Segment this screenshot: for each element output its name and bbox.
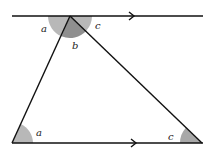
parallel-lines-triangle-diagram: a b c a c <box>0 0 213 153</box>
label-apex-c: c <box>95 20 101 31</box>
triangle-right-side <box>70 16 202 143</box>
triangle-left-side <box>12 16 70 143</box>
diagram-canvas: a b c a c <box>0 0 213 153</box>
label-apex-a: a <box>41 23 47 34</box>
label-bottom-left-a: a <box>36 127 42 138</box>
label-apex-b: b <box>72 40 78 51</box>
bottom-left-angle-a-sector <box>12 124 33 143</box>
label-bottom-right-c: c <box>168 131 174 142</box>
